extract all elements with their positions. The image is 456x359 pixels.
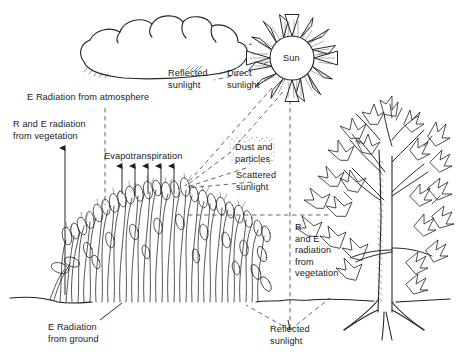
label-reflected-sunlight-cloud: Reflected sunlight — [168, 68, 208, 91]
arrows-layer — [0, 0, 456, 359]
label-r-and-e-radiation-vegetation-left: R and E radiation from vegetation — [13, 119, 86, 142]
label-r-and-e-radiation-vegetation-right: R and E radiation from vegetation — [295, 222, 338, 280]
evapotranspiration-arrows — [122, 166, 174, 194]
label-reflected-sunlight-ground: Reflected sunlight — [270, 324, 310, 347]
leader-e-radiation-ground — [100, 303, 122, 320]
label-dust-and-particles: Dust and particles — [235, 142, 273, 165]
label-scattered-sunlight: Scattered sunlight — [236, 170, 276, 193]
label-direct-sunlight: Direct sunlight — [227, 68, 259, 91]
label-sun: Sun — [283, 53, 300, 65]
label-e-radiation-ground: E Radiation from ground — [48, 322, 99, 345]
diagram-canvas: E Radiation from atmosphere R and E radi… — [0, 0, 456, 359]
label-e-radiation-atmosphere: E Radiation from atmosphere — [27, 92, 149, 104]
label-evapotranspiration: Evapotranspiration — [104, 151, 182, 163]
